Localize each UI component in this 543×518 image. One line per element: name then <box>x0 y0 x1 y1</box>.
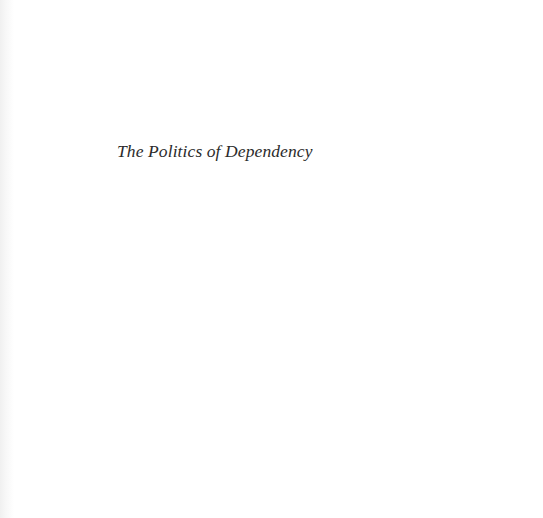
book-half-title-page: The Politics of Dependency <box>0 0 543 518</box>
scan-shadow-edge <box>0 0 14 518</box>
book-title: The Politics of Dependency <box>117 140 313 162</box>
